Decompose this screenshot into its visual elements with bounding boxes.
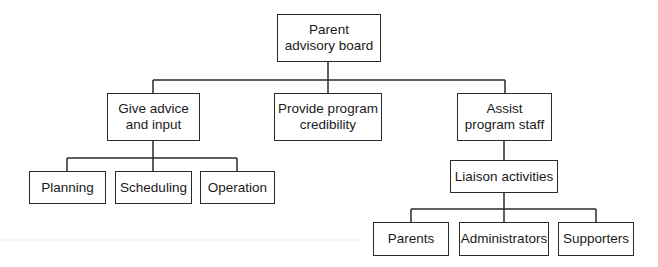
node-parents: Parents <box>373 222 449 256</box>
node-give-advice: Give advice and input <box>107 93 200 141</box>
node-label: Supporters <box>563 231 629 247</box>
scan-shadow <box>0 238 360 242</box>
node-label: Liaison activities <box>455 169 553 185</box>
node-assist-staff: Assist program staff <box>457 93 552 141</box>
node-label: Scheduling <box>120 180 187 196</box>
node-label: Assist program staff <box>465 101 544 133</box>
node-planning: Planning <box>29 171 106 204</box>
node-label: Parents <box>388 231 435 247</box>
node-scheduling: Scheduling <box>115 171 192 204</box>
node-operation: Operation <box>200 171 275 204</box>
node-label: Give advice and input <box>118 101 189 133</box>
node-administrators: Administrators <box>459 222 549 256</box>
node-liaison-activities: Liaison activities <box>450 160 558 193</box>
node-label: Planning <box>41 180 94 196</box>
node-label: Parent advisory board <box>285 22 374 54</box>
node-supporters: Supporters <box>558 222 634 256</box>
node-label: Provide program credibility <box>278 101 378 133</box>
node-label: Administrators <box>461 231 547 247</box>
node-parent-advisory-board: Parent advisory board <box>277 14 381 62</box>
node-provide-credibility: Provide program credibility <box>274 93 382 141</box>
node-label: Operation <box>208 180 267 196</box>
